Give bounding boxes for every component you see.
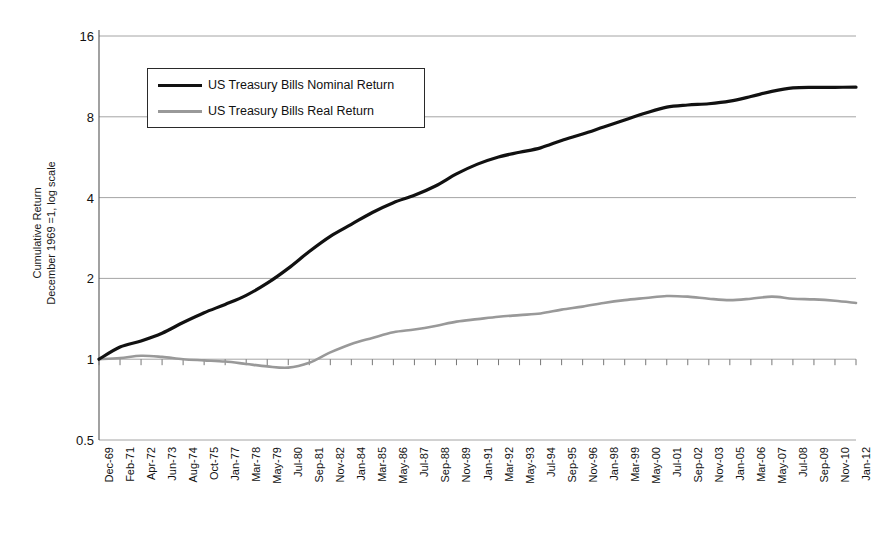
- legend-item-nominal: US Treasury Bills Nominal Return: [158, 75, 394, 95]
- x-tick-label: Apr-72: [145, 447, 157, 480]
- x-tick-label: Jan-77: [229, 447, 241, 481]
- x-tick-label: Oct-75: [208, 447, 220, 480]
- legend-item-real: US Treasury Bills Real Return: [158, 101, 374, 121]
- x-tick-label: Sep-02: [692, 447, 704, 482]
- legend: US Treasury Bills Nominal Return US Trea…: [147, 68, 425, 128]
- legend-swatch-real-icon: [158, 110, 202, 113]
- y-tick-label: 8: [54, 109, 94, 124]
- x-tick-label: Jul-01: [671, 447, 683, 477]
- x-tick-label: Dec-69: [103, 447, 115, 482]
- x-tick-label: Nov-89: [460, 447, 472, 482]
- x-tick-label: Mar-85: [376, 447, 388, 482]
- x-tick-label: Jan-12: [860, 447, 872, 481]
- x-tick-label: Sep-95: [566, 447, 578, 482]
- x-tick-label: Jul-80: [292, 447, 304, 477]
- x-tick-label: Jun-73: [166, 447, 178, 481]
- legend-label-real: US Treasury Bills Real Return: [208, 104, 374, 118]
- x-tick-label: May-00: [650, 447, 662, 484]
- x-tick-label: Jan-98: [608, 447, 620, 481]
- y-tick-label: 0.5: [54, 433, 94, 448]
- x-tick-label: Jul-87: [418, 447, 430, 477]
- x-tick-label: May-86: [397, 447, 409, 484]
- x-tick-label: Sep-88: [439, 447, 451, 482]
- y-axis-title-line1: Cumulative Return: [30, 161, 44, 304]
- x-tick-label: Jul-94: [545, 447, 557, 477]
- x-tick-label: Sep-81: [313, 447, 325, 482]
- x-tick-label: Mar-99: [629, 447, 641, 482]
- cumulative-return-chart: Cumulative Return December 1969 =1, log …: [0, 0, 895, 533]
- x-tick-label: Jan-91: [482, 447, 494, 481]
- x-tick-label: Mar-06: [755, 447, 767, 482]
- x-tick-label: May-79: [271, 447, 283, 484]
- x-tick-label: Aug-74: [187, 447, 199, 482]
- legend-label-nominal: US Treasury Bills Nominal Return: [208, 78, 394, 92]
- x-tick-label: May-93: [524, 447, 536, 484]
- x-axis-tick-labels: Dec-69Feb-71Apr-72Jun-73Aug-74Oct-75Jan-…: [0, 447, 895, 533]
- x-tick-label: Jan-84: [355, 447, 367, 481]
- y-tick-label: 4: [54, 190, 94, 205]
- x-tick-label: Mar-92: [503, 447, 515, 482]
- y-tick-label: 2: [54, 271, 94, 286]
- x-tick-label: Jan-05: [734, 447, 746, 481]
- series-line-real-return: [99, 296, 856, 368]
- x-tick-label: May-07: [776, 447, 788, 484]
- x-tick-label: Mar-78: [250, 447, 262, 482]
- legend-swatch-nominal-icon: [158, 84, 202, 87]
- x-tick-label: Feb-71: [124, 447, 136, 482]
- x-tick-label: Sep-09: [818, 447, 830, 482]
- x-tick-label: Nov-96: [587, 447, 599, 482]
- x-tick-label: Nov-03: [713, 447, 725, 482]
- y-tick-label: 16: [54, 29, 94, 44]
- x-tick-label: Nov-82: [334, 447, 346, 482]
- x-tick-label: Nov-10: [839, 447, 851, 482]
- y-tick-label: 1: [54, 352, 94, 367]
- x-tick-label: Jul-08: [797, 447, 809, 477]
